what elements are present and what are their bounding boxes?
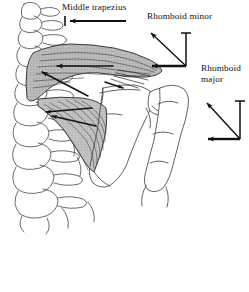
rhomboid-minor-resultant [151, 33, 186, 66]
label-rhomboid-minor: Rhomboid minor [147, 11, 212, 22]
figure-canvas: Middle trapezius Rhomboid minor Rhomboid… [0, 0, 249, 292]
rhomboid-minor-force-vector [151, 33, 191, 66]
rhomboid-major-force-vector [207, 101, 245, 139]
middle-trapezius-force-arrow [65, 16, 126, 26]
rhomboid-major-resultant [207, 103, 240, 139]
label-rhomboid-major: Rhomboid major [201, 63, 241, 84]
label-middle-trapezius: Middle trapezius [62, 2, 126, 13]
label-rhomboid-major-line2: major [201, 74, 241, 85]
label-rhomboid-major-line1: Rhomboid [201, 63, 241, 74]
anatomy-illustration [0, 0, 249, 292]
